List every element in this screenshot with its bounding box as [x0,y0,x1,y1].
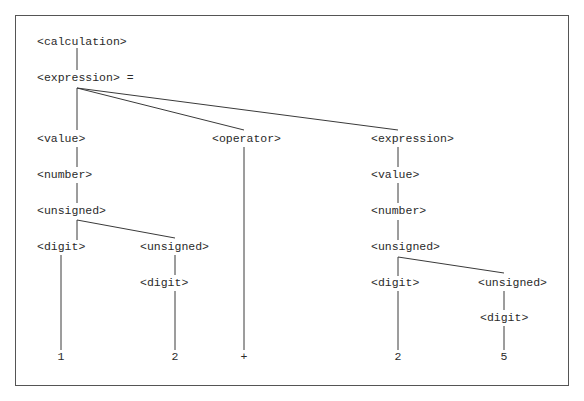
node-calculation: <calculation> [37,36,127,48]
node-digit-left-nested: <digit> [140,277,188,289]
node-expression-right: <expression> [371,133,454,145]
tree-edges [0,0,584,401]
leaf-operator-plus: + [241,351,248,363]
node-unsigned-left-nested: <unsigned> [140,241,209,253]
edge [77,220,175,238]
edge [77,88,398,130]
node-value-left: <value> [37,133,85,145]
node-unsigned-right: <unsigned> [371,241,440,253]
node-unsigned-right-nested: <unsigned> [478,277,547,289]
edge [77,88,244,130]
node-digit-right: <digit> [371,277,419,289]
node-digit-left: <digit> [37,241,85,253]
leaf-digit-5: 5 [501,351,508,363]
edge [398,257,504,273]
node-operator: <operator> [212,133,281,145]
node-number-left: <number> [37,169,92,181]
leaf-digit-1: 1 [58,351,65,363]
node-unsigned-left: <unsigned> [37,205,106,217]
node-digit-right-nested: <digit> [480,312,528,324]
node-value-right: <value> [371,169,419,181]
node-number-right: <number> [371,205,426,217]
leaf-digit-2: 2 [172,351,179,363]
leaf-digit-2-right: 2 [395,351,402,363]
node-expression-root: <expression> = [37,72,134,84]
